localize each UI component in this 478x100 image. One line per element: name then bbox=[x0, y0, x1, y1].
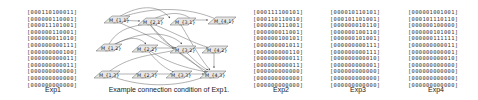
node-m31: M_{3,1} bbox=[170, 18, 196, 26]
matrix-row: 000000000000 bbox=[408, 75, 458, 82]
matrix-row: 000000000010 bbox=[330, 55, 380, 62]
matrix-row: 000000000000 bbox=[253, 75, 303, 82]
matrix-row: 000000111001 bbox=[253, 22, 303, 29]
matrix-row: 000000000110 bbox=[253, 49, 303, 56]
node-m41: M_{4,1} bbox=[208, 17, 236, 25]
matrix-row: 000011101001 bbox=[27, 22, 77, 29]
matrix-row: 000000000000 bbox=[27, 75, 77, 82]
matrix-row: 000000110001 bbox=[27, 16, 77, 23]
matrix-row: 000110110010 bbox=[253, 16, 303, 23]
matrix-row: 000000000011 bbox=[27, 55, 77, 62]
matrix-row: 000000000111 bbox=[27, 42, 77, 49]
matrix-row: 000000100110 bbox=[330, 29, 380, 36]
matrix-row: 000000001011 bbox=[253, 42, 303, 49]
matrix-row: 000101101001 bbox=[330, 16, 380, 23]
matrix-row: 000000000011 bbox=[408, 42, 458, 49]
exp1-caption: Exp1 bbox=[27, 86, 79, 93]
matrix-row: 000000000001 bbox=[330, 62, 380, 69]
matrix-row: 000000000000 bbox=[408, 68, 458, 75]
exp3-matrix: 000010110101 000101101001 000000010110 0… bbox=[330, 9, 380, 88]
exp3-caption: Exp3 bbox=[330, 86, 386, 93]
matrix-row: 000000000001 bbox=[408, 49, 458, 56]
matrix-row: 000000000011 bbox=[253, 55, 303, 62]
exp2-caption: Exp2 bbox=[253, 86, 309, 93]
node-m23: M_{2,3} bbox=[132, 71, 158, 79]
matrix-row: 000001001001 bbox=[408, 9, 458, 16]
node-m12: M_{1,2} bbox=[96, 44, 122, 52]
matrix-row: 000000011001 bbox=[253, 29, 303, 36]
node-m11: M_{1,1} bbox=[104, 16, 130, 24]
node-m33: M_{3,3} bbox=[166, 71, 192, 79]
node-m13: M_{1,3} bbox=[94, 71, 120, 79]
connection-diagram: M_{1,1} M_{2,1} M_{3,1} M_{4,1} M_{1,2} … bbox=[88, 6, 238, 86]
exp4-caption: Exp4 bbox=[408, 86, 464, 93]
matrix-row: 000000101001 bbox=[408, 29, 458, 36]
matrix-row: 000000000100 bbox=[27, 49, 77, 56]
diagram-caption: Example connection condition of Exp1. bbox=[94, 86, 244, 93]
matrix-row: 000000000000 bbox=[253, 68, 303, 75]
matrix-row: 000000000011 bbox=[253, 62, 303, 69]
matrix-row: 000000100000 bbox=[408, 22, 458, 29]
exp4-matrix: 000001001001 000101110110 000000100000 0… bbox=[408, 9, 458, 88]
node-m21: M_{2,1} bbox=[138, 18, 164, 26]
matrix-row: 000000000000 bbox=[408, 62, 458, 69]
node-m42: M_{4,2} bbox=[202, 46, 228, 54]
matrix-row: 000000100101 bbox=[253, 35, 303, 42]
matrix-row: 000000000000 bbox=[330, 75, 380, 82]
matrix-row: 000000101001 bbox=[330, 35, 380, 42]
matrix-row: 000000111111 bbox=[408, 35, 458, 42]
matrix-row: 000000000000 bbox=[330, 68, 380, 75]
matrix-row: 000000000010 bbox=[408, 55, 458, 62]
matrix-row: 000000000111 bbox=[330, 42, 380, 49]
matrix-row: 000010110101 bbox=[330, 9, 380, 16]
matrix-row: 000000011010 bbox=[27, 35, 77, 42]
exp2-matrix: 000111100101 000110110010 000000111001 0… bbox=[253, 9, 303, 88]
matrix-row: 000101110110 bbox=[408, 16, 458, 23]
matrix-row: 000000110001 bbox=[27, 29, 77, 36]
matrix-row: 000110100011 bbox=[27, 9, 77, 16]
matrix-row: 000111100101 bbox=[253, 9, 303, 16]
exp1-matrix: 000110100011 000000110001 000011101001 0… bbox=[27, 9, 77, 88]
node-m22: M_{2,2} bbox=[132, 45, 158, 53]
matrix-row: 000000000111 bbox=[330, 49, 380, 56]
matrix-row: 000000000011 bbox=[27, 62, 77, 69]
node-grid: M_{1,1} M_{2,1} M_{3,1} M_{4,1} M_{1,2} … bbox=[94, 16, 236, 79]
matrix-row: 000000000000 bbox=[27, 68, 77, 75]
matrix-row: 000000010110 bbox=[330, 22, 380, 29]
